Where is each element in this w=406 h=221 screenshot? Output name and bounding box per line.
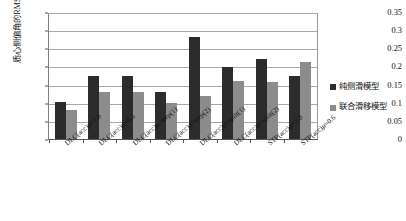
legend-swatch-icon [330,105,336,111]
legend-item: 联合滑移模型 [330,103,387,111]
x-axis-labels: DLC(acc)μ=1.0DLC(acc)μ=0.5DLC(acc)μ=step… [49,142,317,220]
y-tick-label: 0.2 [360,63,406,71]
y-tick-label: 0.3 [360,27,406,35]
bar-chart: 质心侧偏角的RMSE/(°) 00.050.10.150.20.250.30.3… [0,0,406,221]
legend-label: 联合滑移模型 [339,103,387,111]
y-tick-label: 0 [360,136,406,144]
y-axis-title: 质心侧偏角的RMSE/(°) [14,0,22,82]
bar [55,102,66,139]
chart-legend: 纯侧滑模型联合滑移模型 [330,83,387,124]
y-tick-label: 0.25 [360,45,406,53]
y-tick-label: 0.35 [360,9,406,17]
bar-group [49,14,83,139]
legend-swatch-icon [330,84,336,90]
legend-item: 纯侧滑模型 [330,83,387,91]
legend-label: 纯侧滑模型 [339,83,379,91]
bar [300,62,311,140]
